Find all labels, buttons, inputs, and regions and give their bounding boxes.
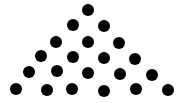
dot — [50, 36, 62, 48]
triangle-dot-diagram — [0, 0, 180, 103]
dot — [23, 66, 35, 78]
dot — [82, 36, 94, 48]
dot — [67, 19, 79, 31]
dot-row-5 — [23, 65, 158, 81]
dot — [67, 51, 79, 63]
dot — [98, 85, 110, 97]
dot-row-3 — [50, 36, 125, 49]
dot — [41, 84, 53, 96]
dot — [82, 67, 94, 79]
dot — [114, 68, 126, 80]
dot — [129, 53, 141, 65]
dot — [162, 84, 174, 96]
dot — [66, 83, 78, 95]
dot-row-6 — [10, 83, 174, 97]
dot — [98, 52, 110, 64]
dot — [10, 83, 22, 95]
dot-row-2 — [67, 19, 110, 32]
dot — [35, 50, 47, 62]
dot — [82, 4, 94, 16]
dot — [51, 65, 63, 77]
dot — [130, 83, 142, 95]
dot-row-1 — [82, 4, 94, 16]
dot — [98, 20, 110, 32]
dot — [146, 69, 158, 81]
dot — [113, 37, 125, 49]
dot-row-4 — [35, 50, 141, 65]
